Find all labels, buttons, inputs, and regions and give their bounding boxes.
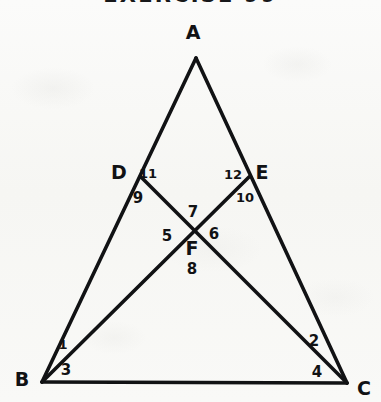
- geometry-figure: [0, 0, 381, 402]
- angle-label-8: 8: [187, 262, 197, 277]
- segment-AB: [42, 58, 196, 382]
- segment-AC: [196, 58, 347, 383]
- angle-label-7: 7: [188, 205, 198, 220]
- angle-label-6: 6: [209, 227, 219, 242]
- segments-group: [42, 58, 347, 383]
- segment-BC: [42, 382, 347, 383]
- segment-EB: [42, 177, 249, 382]
- vertex-label-c: C: [357, 379, 371, 398]
- angle-label-4: 4: [312, 365, 322, 380]
- vertex-label-b: B: [15, 370, 29, 389]
- angle-label-1: 1: [58, 338, 67, 351]
- vertex-label-f: F: [186, 239, 199, 258]
- angle-label-9: 9: [133, 191, 143, 206]
- scanned-page: EXERCISE 99 ABCDEF123456789101112: [0, 0, 381, 402]
- angle-label-5: 5: [162, 229, 172, 244]
- angle-label-11: 11: [139, 167, 157, 180]
- angle-label-2: 2: [309, 334, 319, 349]
- vertex-label-a: A: [186, 23, 201, 42]
- vertex-label-d: D: [111, 163, 127, 182]
- segment-DC: [141, 177, 347, 383]
- angle-label-10: 10: [236, 191, 254, 204]
- angle-label-3: 3: [61, 363, 71, 378]
- angle-label-12: 12: [224, 168, 242, 181]
- vertex-label-e: E: [256, 163, 269, 182]
